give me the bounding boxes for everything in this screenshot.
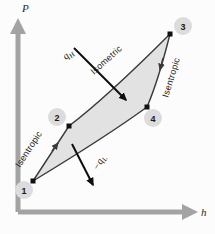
state-badge-2: 2 [48, 108, 66, 126]
state-badge-4-label: 4 [150, 114, 155, 124]
state-point-1-marker [31, 179, 36, 184]
process-label-2-3: Isometric [89, 43, 124, 76]
state-badge-2-label: 2 [54, 113, 59, 123]
x-axis-arrowhead-icon [182, 204, 198, 220]
y-axis-arrowhead-icon [10, 18, 26, 34]
y-axis-label: P [21, 2, 29, 14]
x-axis-label: h [201, 206, 207, 218]
state-point-2-marker [67, 124, 72, 129]
state-point-3-marker [168, 32, 173, 37]
process-label-3-4: Isentropic [160, 56, 182, 98]
state-point-4-marker [145, 105, 150, 110]
ph-diagram-canvas: P h Isentropic Isometric Isent [0, 0, 215, 234]
state-badge-1-label: 1 [21, 186, 26, 196]
state-badge-3-label: 3 [180, 22, 185, 32]
heat-out-label: −qL [90, 153, 109, 173]
ph-diagram-figure: P h Isentropic Isometric Isent [0, 0, 215, 234]
state-badge-3: 3 [174, 17, 192, 35]
state-badge-1: 1 [15, 181, 33, 199]
state-badge-4: 4 [144, 109, 162, 127]
